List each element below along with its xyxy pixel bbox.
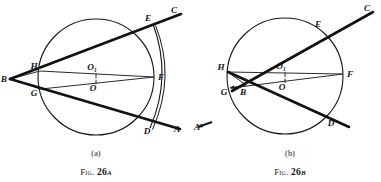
point-label-C: C: [171, 5, 178, 15]
point-label-D: D: [143, 126, 151, 136]
point-label-E: E: [314, 19, 321, 29]
point-label-G: G: [221, 87, 228, 97]
point-label-A: A: [173, 124, 180, 134]
point-label-B: B: [239, 87, 246, 97]
point-label-O: O: [90, 83, 97, 93]
point-label-F: F: [157, 72, 164, 82]
fig26b-point-labels: B C A E D F H G O1 O: [193, 3, 371, 132]
point-label-F: F: [346, 69, 353, 79]
chord-HF: [228, 72, 343, 74]
panel-label-b: (b): [285, 149, 295, 158]
point-label-E: E: [144, 13, 151, 23]
point-label-O: O: [279, 82, 286, 92]
figure-26b: B C A E D F H G O1 O (b) Fig. 26b: [190, 0, 381, 182]
point-label-D: D: [327, 118, 335, 128]
figure-26a: B C A E D F H G O1 O (a) Fig. 26a: [0, 0, 190, 182]
point-label-G: G: [31, 88, 38, 98]
point-label-H: H: [29, 61, 38, 71]
point-label-A: A: [193, 122, 200, 132]
figure-board: B C A E D F H G O1 O (a) Fig. 26a: [0, 0, 381, 182]
caption-26b: Fig. 26b: [274, 166, 306, 177]
point-label-O1: O1: [87, 62, 97, 73]
chord-GF: [41, 77, 154, 89]
point-label-C: C: [364, 3, 371, 13]
point-label-H: H: [216, 62, 225, 72]
caption-26a: Fig. 26a: [80, 166, 112, 177]
panel-label-a: (a): [91, 149, 101, 158]
chord-HF: [40, 71, 154, 77]
point-label-B: B: [0, 74, 7, 84]
